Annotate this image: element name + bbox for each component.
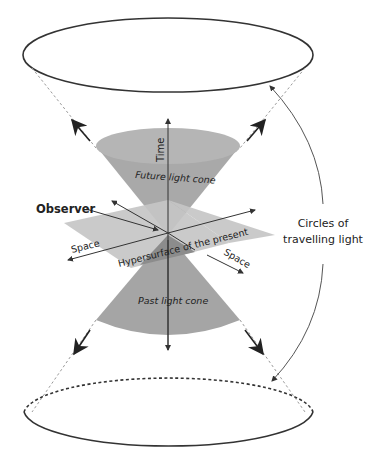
circles-label-line2: travelling light [283, 233, 364, 246]
ray-arrow-top-right [247, 120, 265, 141]
future-light-circle [23, 18, 313, 92]
circles-pointer-top [270, 86, 323, 204]
past-light-circle-back [24, 378, 313, 412]
time-label: Time [155, 138, 166, 163]
space-label-right: Space [222, 246, 253, 270]
past-cone-label: Past light cone [138, 295, 208, 306]
observer-label: Observer [36, 202, 96, 216]
light-cone-diagram: Time Future light cone Past light cone O… [0, 0, 383, 464]
past-light-circle-front [24, 412, 313, 446]
circles-label-line1: Circles of [298, 217, 350, 230]
ray-arrow-bottom-right [245, 330, 263, 354]
ray-arrow-bottom-left [74, 330, 90, 354]
circles-pointer-bottom [272, 264, 323, 381]
ray-arrow-top-left [72, 120, 90, 141]
